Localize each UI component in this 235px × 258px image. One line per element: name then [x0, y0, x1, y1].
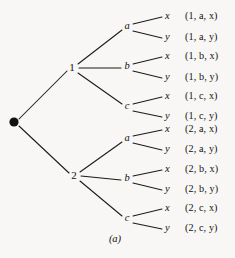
leaf-1-a-x-label: x [164, 10, 170, 21]
node-2-b-label: b [124, 172, 129, 183]
outcome-1-c-y: (1, c, y) [185, 110, 218, 122]
outcome-2-c-y: (2, c, y) [185, 222, 218, 234]
edge-2b-x [133, 170, 162, 176]
edge-1-c [78, 73, 122, 104]
outcome-1-a-x: (1, a, x) [185, 10, 218, 22]
leaf-2-a-y-label: y [164, 143, 170, 154]
outcome-1-c-x: (1, c, x) [185, 90, 218, 102]
outcome-1-a-y: (1, a, y) [185, 31, 218, 43]
edge-2-b [81, 176, 121, 180]
tree-diagram-svg: 1 2 a b c a b c x y x y x y x y x y x y … [0, 0, 235, 258]
edge-2-c [80, 181, 122, 216]
edge-1b-x [133, 57, 162, 64]
edge-root-2 [19, 126, 69, 173]
edge-2c-y [133, 223, 162, 229]
edges-root-to-level1 [19, 71, 69, 173]
edge-2c-x [133, 209, 162, 216]
edge-2a-y [133, 143, 162, 150]
leaf-2-a-x-label: x [164, 123, 170, 134]
outcome-1-b-x: (1, b, x) [185, 50, 218, 62]
edge-1-a [78, 30, 122, 64]
leaf-1-b-x-label: x [164, 50, 170, 61]
leaf-2-b-y-label: y [164, 183, 170, 194]
leaf-1-c-y-label: y [164, 110, 170, 121]
outcome-1-b-y: (1, b, y) [185, 71, 218, 83]
tree-diagram-figure: 1 2 a b c a b c x y x y x y x y x y x y … [0, 0, 235, 258]
node-2-c-label: c [125, 212, 130, 223]
edges-2-to-letters [80, 142, 122, 216]
edge-2a-x [133, 130, 162, 136]
edge-1b-y [133, 71, 162, 78]
figure-caption: (a) [109, 233, 122, 245]
leaf-2-c-x-label: x [164, 202, 170, 213]
root-node [9, 117, 18, 126]
outcome-2-c-x: (2, c, x) [185, 202, 218, 214]
leaf-1-b-y-label: y [164, 71, 170, 82]
leaf-2-b-x-label: x [164, 163, 170, 174]
edges-1-to-letters [78, 30, 122, 104]
node-1-b-label: b [124, 60, 129, 71]
edge-root-1 [19, 71, 67, 119]
edge-1a-y [133, 31, 162, 38]
edge-2-a [80, 142, 122, 172]
leaf-1-c-x-label: x [164, 90, 170, 101]
outcome-2-b-y: (2, b, y) [185, 183, 218, 195]
leaf-1-a-y-label: y [164, 31, 170, 42]
edge-1c-x [133, 97, 162, 104]
node-2-a-label: a [124, 132, 129, 143]
edge-1c-y [133, 111, 162, 117]
edge-2b-y [133, 183, 162, 190]
outcome-2-a-x: (2, a, x) [185, 123, 218, 135]
node-1-c-label: c [125, 100, 130, 111]
outcome-2-b-x: (2, b, x) [185, 163, 218, 175]
node-1-a-label: a [124, 20, 129, 31]
node-2-label: 2 [71, 169, 77, 181]
edge-1a-x [133, 17, 162, 24]
edges-letters-to-leaves [133, 17, 162, 229]
node-1-label: 1 [69, 61, 75, 73]
outcome-2-a-y: (2, a, y) [185, 143, 218, 155]
leaf-2-c-y-label: y [164, 222, 170, 233]
